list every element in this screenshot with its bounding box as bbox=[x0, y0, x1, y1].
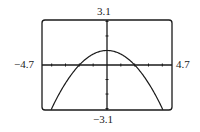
graph-screen bbox=[0, 0, 200, 132]
axes bbox=[42, 20, 172, 110]
